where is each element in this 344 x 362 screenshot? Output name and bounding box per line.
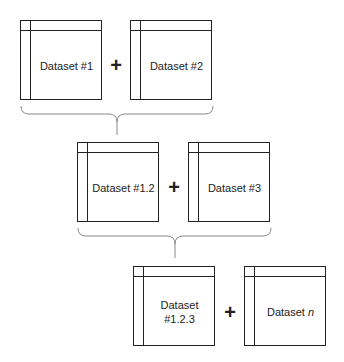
header-row-line bbox=[245, 276, 325, 277]
plus-operator-3: + bbox=[220, 302, 240, 322]
index-column-line bbox=[140, 21, 141, 99]
dataset-1-2-label: Dataset #1.2 bbox=[89, 154, 158, 221]
index-column-line bbox=[143, 267, 144, 345]
header-row-line bbox=[189, 152, 269, 153]
header-row-line bbox=[131, 30, 211, 31]
index-column-line bbox=[254, 267, 255, 345]
dataset-1-2-table: Dataset #1.2 bbox=[77, 142, 159, 222]
bracket-step-2 bbox=[78, 228, 271, 244]
header-row-line bbox=[78, 152, 158, 153]
dataset-1-2-3-label: Dataset #1.2.3 bbox=[145, 278, 214, 345]
dataset-n-variable: n bbox=[308, 305, 314, 319]
header-row-line bbox=[21, 30, 101, 31]
index-column-line bbox=[198, 143, 199, 221]
dataset-n-table: Dataset n bbox=[244, 266, 326, 346]
dataset-3-table: Dataset #3 bbox=[188, 142, 270, 222]
header-row-line bbox=[134, 276, 214, 277]
dataset-2-label: Dataset #2 bbox=[142, 32, 211, 99]
plus-operator-2: + bbox=[164, 177, 184, 197]
dataset-1-2-3-label-line1: Dataset bbox=[161, 298, 199, 312]
bracket-step-1 bbox=[21, 106, 213, 122]
dataset-1-2-3-label-line2: #1.2.3 bbox=[161, 312, 199, 326]
dataset-1-table: Dataset #1 bbox=[20, 20, 102, 100]
dataset-1-2-3-table: Dataset #1.2.3 bbox=[133, 266, 215, 346]
dataset-n-prefix: Dataset bbox=[267, 305, 305, 319]
plus-operator-1: + bbox=[106, 55, 126, 75]
dataset-n-label: Dataset n bbox=[256, 278, 325, 345]
index-column-line bbox=[87, 143, 88, 221]
dataset-2-table: Dataset #2 bbox=[130, 20, 212, 100]
dataset-1-label: Dataset #1 bbox=[32, 32, 101, 99]
dataset-3-label: Dataset #3 bbox=[200, 154, 269, 221]
index-column-line bbox=[30, 21, 31, 99]
